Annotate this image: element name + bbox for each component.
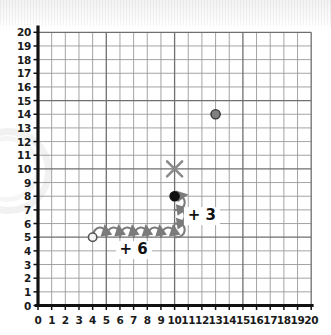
translated-point bbox=[170, 192, 179, 201]
y-tick-label: 19 bbox=[17, 41, 31, 52]
y-tick-label: 7 bbox=[24, 205, 31, 216]
x-tick-label: 12 bbox=[195, 315, 209, 326]
y-tick-label: 4 bbox=[24, 246, 31, 257]
y-tick-label: 10 bbox=[17, 164, 31, 175]
y-tick-label: 15 bbox=[17, 95, 31, 106]
y-tick-label: 12 bbox=[17, 136, 31, 147]
coordinate-plot bbox=[0, 0, 331, 335]
x-tick-label: 1 bbox=[48, 315, 55, 326]
y-tick-label: 3 bbox=[24, 259, 31, 270]
y-tick-label: 5 bbox=[24, 232, 31, 243]
y-tick-label: 1 bbox=[24, 287, 31, 298]
x-tick-label: 19 bbox=[291, 315, 305, 326]
x-tick-label: 15 bbox=[236, 315, 250, 326]
x-tick-label: 20 bbox=[304, 315, 318, 326]
y-tick-label: 17 bbox=[17, 68, 31, 79]
y-tick-label: 20 bbox=[17, 27, 31, 38]
x-tick-label: 16 bbox=[250, 315, 264, 326]
x-tick-label: 5 bbox=[103, 315, 110, 326]
x-tick-label: 17 bbox=[263, 315, 277, 326]
x-tick-label: 9 bbox=[157, 315, 164, 326]
start-point bbox=[88, 233, 96, 241]
y-tick-label: 11 bbox=[17, 150, 31, 161]
x-tick-label: 10 bbox=[168, 315, 182, 326]
y-tick-label: 18 bbox=[17, 54, 31, 65]
x-tick-label: 0 bbox=[34, 315, 41, 326]
x-tick-label: 11 bbox=[181, 315, 195, 326]
y-tick-label: 6 bbox=[24, 218, 31, 229]
x-tick-label: 14 bbox=[222, 315, 236, 326]
y-tick-label: 14 bbox=[17, 109, 31, 120]
y-tick-label: 16 bbox=[17, 82, 31, 93]
x-tick-label: 4 bbox=[89, 315, 96, 326]
figure-canvas: 01234567891011121314151617181920 0123456… bbox=[0, 0, 331, 335]
y-tick-label: 0 bbox=[24, 300, 31, 311]
horizontal-translation-label: + 6 bbox=[115, 241, 151, 259]
y-tick-label: 2 bbox=[24, 273, 31, 284]
x-tick-label: 13 bbox=[209, 315, 223, 326]
y-tick-label: 8 bbox=[24, 191, 31, 202]
y-tick-label: 9 bbox=[24, 177, 31, 188]
x-tick-label: 7 bbox=[130, 315, 137, 326]
x-tick-label: 3 bbox=[75, 315, 82, 326]
x-tick-label: 2 bbox=[62, 315, 69, 326]
x-tick-label: 18 bbox=[277, 315, 291, 326]
x-tick-label: 6 bbox=[116, 315, 123, 326]
vertical-translation-label: + 3 bbox=[184, 207, 220, 225]
distractor-point bbox=[211, 110, 220, 119]
x-tick-label: 8 bbox=[144, 315, 151, 326]
y-tick-label: 13 bbox=[17, 123, 31, 134]
